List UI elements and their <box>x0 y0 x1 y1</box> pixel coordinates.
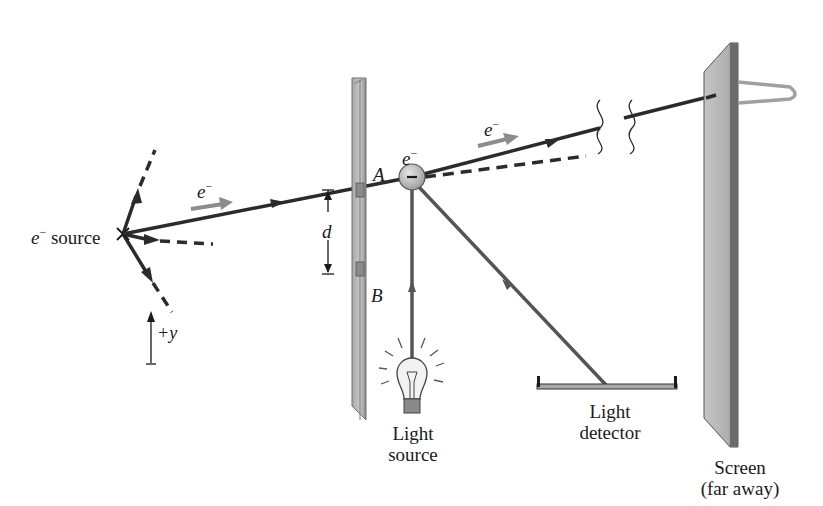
electron-path-to-screen <box>624 95 716 118</box>
light-ray-arrowhead <box>408 280 416 292</box>
slit-plate <box>352 78 366 420</box>
y-axis-indicator <box>146 311 156 364</box>
electron-label-outgoing: e− <box>484 118 499 139</box>
y-axis-label: +y <box>157 324 177 342</box>
detection-screen <box>704 43 738 447</box>
outgoing-arrowhead <box>545 139 560 148</box>
source-label: e− source <box>31 226 101 247</box>
electron-label-detected: e− <box>402 147 417 168</box>
screen-hanger-wire <box>738 82 795 103</box>
slit-a-opening <box>356 183 364 197</box>
d-arrow-down <box>324 264 332 273</box>
slit-b-opening <box>356 262 364 276</box>
light-detector-label: Light detector <box>565 402 655 442</box>
distance-break-marks <box>597 100 635 154</box>
light-source-label: Light source <box>378 424 448 464</box>
slit-a-label: A <box>373 165 385 184</box>
screen-label: Screen (far away) <box>690 458 790 498</box>
electron-label-incoming: e− <box>197 180 212 201</box>
slit-b-label: B <box>371 286 383 305</box>
slit-separation-label: d <box>322 222 332 241</box>
light-ray-to-detector <box>418 186 606 385</box>
light-detector-icon <box>537 376 677 389</box>
electron-path-incoming <box>123 177 412 234</box>
